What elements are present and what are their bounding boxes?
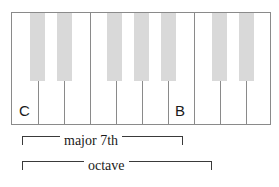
piano-interval-diagram: C B major 7th octave [0, 0, 279, 187]
black-key-c-sharp-1[interactable] [30, 13, 45, 81]
black-key-d-sharp-2[interactable] [239, 13, 254, 81]
black-key-g-sharp-1[interactable] [134, 13, 149, 81]
bracket-octave-label: octave [84, 159, 129, 173]
black-key-f-sharp-1[interactable] [107, 13, 122, 81]
key-label-b: B [175, 103, 185, 118]
black-key-a-sharp-1[interactable] [161, 13, 176, 81]
black-key-d-sharp-1[interactable] [57, 13, 72, 81]
piano-keyboard: C B [11, 12, 271, 125]
bracket-major-7th-label: major 7th [60, 134, 122, 148]
key-label-c: C [19, 103, 30, 118]
black-key-c-sharp-2[interactable] [212, 13, 227, 81]
